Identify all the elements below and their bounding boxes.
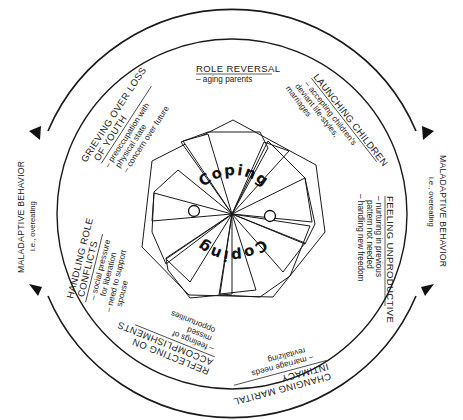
maladaptive-left-title: MALADAPTIVE BEHAVIOR <box>16 161 26 273</box>
section-role-reversal: ROLE REVERSAL – aging parents <box>196 63 280 84</box>
coping-star <box>142 120 325 297</box>
section-changing-marital-intimacy: CHANGING MARITAL INTIMACY – marriage nee… <box>224 341 332 408</box>
left-circle-marker-icon <box>189 206 200 217</box>
feeling-unproductive-detail: – nurturing in previous <box>374 196 383 277</box>
section-reflecting-on-accomplishments: REFLECTING ON ACCOMPLISHMENTS – feelings… <box>112 292 226 378</box>
maladaptive-right-title: MALADAPTIVE BEHAVIOR <box>438 155 448 267</box>
section-feeling-unproductive: FEELING UNPRODUCTIVE – nurturing in prev… <box>356 194 396 323</box>
maladaptive-left-subtitle: i.e., overeating <box>28 201 37 251</box>
feeling-unproductive-title: FEELING UNPRODUCTIVE <box>385 196 396 323</box>
maladaptive-left: MALADAPTIVE BEHAVIOR i.e., overeating <box>16 161 37 273</box>
maladaptive-right-subtitle: i.e., overeating <box>427 177 436 227</box>
feeling-unproductive-detail: – handling new freedom <box>356 194 365 282</box>
right-circle-marker-icon <box>265 211 276 222</box>
arrow-top-left-icon <box>29 126 41 140</box>
maladaptive-right: MALADAPTIVE BEHAVIOR i.e., overeating <box>427 155 448 267</box>
feeling-unproductive-detail: pattern not needed <box>365 200 374 269</box>
section-handling-role-conflicts: HANDLING ROLE CONFLICTS – social pressur… <box>63 216 142 315</box>
role-reversal-detail: – aging parents <box>196 75 252 84</box>
role-reversal-title: ROLE REVERSAL <box>196 63 280 74</box>
coping-diagram: Coping Coping ROLE REVERSAL – aging pare… <box>0 0 463 420</box>
arrow-top-right-icon <box>422 126 434 140</box>
arrow-bottom-left-icon <box>29 284 42 296</box>
arrow-bottom-right-icon <box>421 284 434 296</box>
